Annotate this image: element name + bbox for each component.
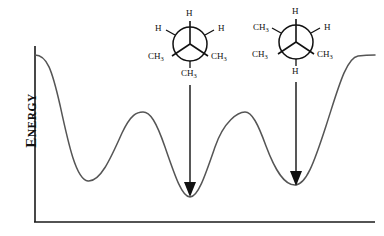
- newman1-label-back-upper-right: H: [218, 24, 225, 33]
- plot-canvas: [0, 0, 384, 236]
- newman2-label-front-lower-right-sub: 3: [330, 53, 333, 60]
- newman1-label-front-lower-right: CH3: [211, 52, 227, 61]
- y-axis-label-first: E: [23, 137, 39, 148]
- energy-diagram-figure: ENERGY H H H CH3 CH3 CH3 H CH3 H CH3 CH3…: [0, 0, 384, 236]
- newman1-label-back-bottom-sub: 3: [194, 72, 197, 79]
- newman2-label-front-lower-right: CH3: [317, 50, 333, 59]
- gauche-staggered-newman-projection: [272, 19, 320, 66]
- newman2-label-front-lower-left-sub: 3: [265, 53, 268, 60]
- newman1-label-back-bottom-text: CH: [181, 68, 194, 78]
- energy-curve: [35, 55, 375, 197]
- anti-staggered-newman-projection: [166, 21, 214, 68]
- newman2-label-back-upper-left-text: CH: [253, 22, 266, 32]
- arrow-to-gauche-minimum: [290, 82, 302, 186]
- back-bond-upper-left-2: [272, 28, 281, 33]
- back-bond-upper-right-2: [311, 28, 320, 33]
- y-axis-label: ENERGY: [23, 81, 40, 161]
- newman2-label-front-top: H: [292, 7, 299, 16]
- newman2-label-back-upper-left: CH3: [253, 23, 269, 32]
- newman1-label-back-bottom: CH3: [181, 69, 197, 78]
- back-bond-upper-left-1: [166, 30, 175, 35]
- newman1-label-front-lower-left: CH3: [148, 52, 164, 61]
- newman1-label-front-lower-left-sub: 3: [161, 55, 164, 62]
- newman1-label-front-lower-right-sub: 3: [224, 55, 227, 62]
- arrow-to-anti-minimum: [184, 85, 196, 197]
- newman1-label-front-lower-left-text: CH: [148, 51, 161, 61]
- newman2-label-back-upper-right: H: [324, 23, 331, 32]
- newman1-label-front-lower-right-text: CH: [211, 51, 224, 61]
- newman2-label-front-lower-left-text: CH: [252, 49, 265, 59]
- newman1-label-back-upper-left: H: [155, 24, 162, 33]
- newman2-label-front-lower-right-text: CH: [317, 49, 330, 59]
- newman1-label-front-top: H: [186, 9, 193, 18]
- back-bond-upper-right-1: [205, 30, 214, 35]
- newman2-label-back-bottom: H: [292, 67, 299, 76]
- newman2-label-front-lower-left: CH3: [252, 50, 268, 59]
- y-axis-label-rest: NERGY: [26, 93, 38, 137]
- newman2-label-back-upper-left-sub: 3: [266, 26, 269, 33]
